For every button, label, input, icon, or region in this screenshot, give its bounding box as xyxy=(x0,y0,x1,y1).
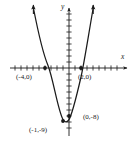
coordinate-plane xyxy=(0,0,137,141)
x-axis xyxy=(10,65,127,70)
point-label-x-intercept-right: (2,0) xyxy=(78,74,91,81)
point-label-vertex: (-1,-9) xyxy=(29,127,47,134)
x-axis-label: x xyxy=(121,53,124,61)
parabola-curve xyxy=(33,5,93,122)
parabola-graph-figure: x y (-4,0) (2,0) (-1,-9) (0,-8) xyxy=(0,0,137,141)
point-x-intercept-right xyxy=(79,66,83,70)
point-label-y-intercept: (0,-8) xyxy=(83,114,99,121)
point-y-intercept xyxy=(67,114,71,118)
point-label-x-intercept-left: (-4,0) xyxy=(16,74,32,81)
point-x-intercept-left xyxy=(43,66,47,70)
point-vertex xyxy=(61,119,65,123)
y-axis-label: y xyxy=(61,3,64,11)
